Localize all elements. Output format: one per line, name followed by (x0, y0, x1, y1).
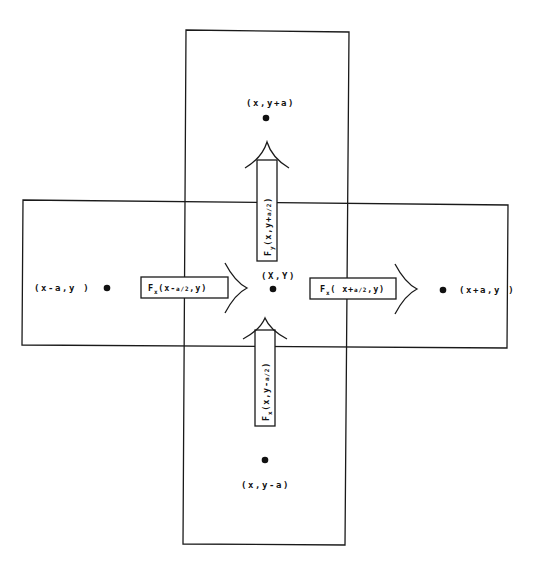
node-right-dot (440, 287, 447, 294)
node-center-dot (270, 286, 277, 293)
node-left-dot (104, 285, 111, 292)
node-bottom-label: (x,y-a) (241, 480, 290, 490)
node-right-label: (x+a,y ) (459, 285, 515, 295)
node-bottom-dot (262, 457, 269, 464)
node-top-label: (x,y+a) (246, 98, 295, 108)
flux-stencil-diagram: (X,Y) (x,y+a) (x,y-a) (x-a,y ) (x+a,y ) … (0, 0, 543, 563)
node-left-label: (x-a,y ) (34, 283, 90, 293)
node-center-label: (X,Y) (261, 271, 296, 281)
node-top-dot (263, 115, 270, 122)
